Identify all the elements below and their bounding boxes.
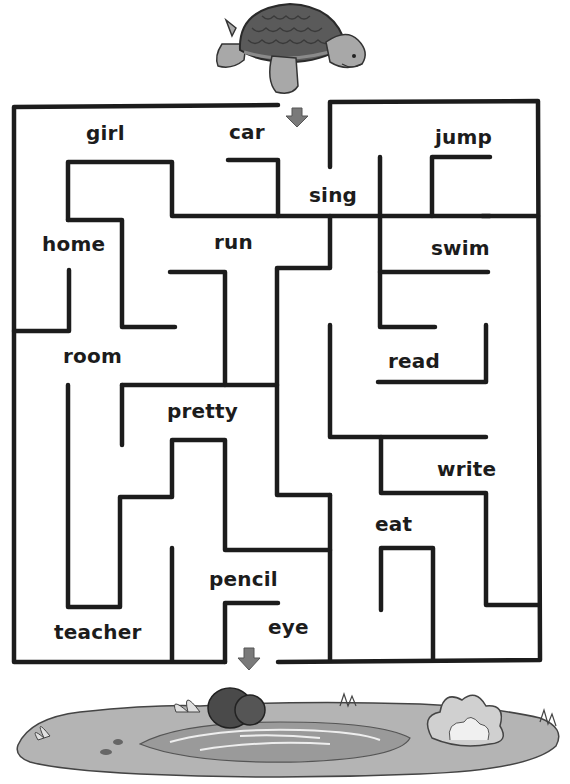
word-swim[interactable]: swim bbox=[431, 238, 490, 258]
word-run[interactable]: run bbox=[214, 232, 253, 252]
word-sing[interactable]: sing bbox=[309, 185, 357, 205]
word-girl[interactable]: girl bbox=[86, 123, 125, 143]
word-eat[interactable]: eat bbox=[375, 514, 412, 534]
pond-icon bbox=[0, 0, 570, 784]
word-home[interactable]: home bbox=[42, 234, 105, 254]
word-read[interactable]: read bbox=[388, 351, 440, 371]
word-jump[interactable]: jump bbox=[435, 127, 492, 147]
word-eye[interactable]: eye bbox=[268, 617, 309, 637]
word-pencil[interactable]: pencil bbox=[209, 569, 278, 589]
maze-worksheet: girl car jump sing home run swim room re… bbox=[0, 0, 570, 784]
word-write[interactable]: write bbox=[437, 459, 496, 479]
word-pretty[interactable]: pretty bbox=[167, 401, 238, 421]
word-car[interactable]: car bbox=[229, 122, 265, 142]
word-teacher[interactable]: teacher bbox=[54, 622, 142, 642]
word-room[interactable]: room bbox=[63, 346, 122, 366]
